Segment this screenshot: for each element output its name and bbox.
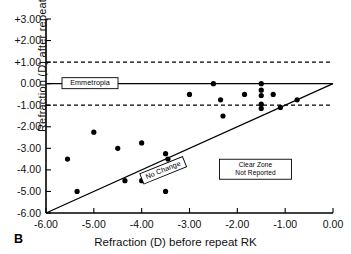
- svg-text:-6.00: -6.00: [17, 207, 41, 219]
- data-point: [271, 92, 276, 97]
- data-point: [295, 97, 300, 102]
- data-point: [91, 130, 96, 135]
- data-point: [165, 157, 170, 162]
- emmetropia-label: Emmetropia: [62, 78, 118, 89]
- data-point: [74, 189, 79, 194]
- svg-text:-3.00: -3.00: [178, 218, 202, 230]
- svg-text:Not Reported: Not Reported: [235, 169, 276, 177]
- data-point: [163, 151, 168, 156]
- y-axis-label: Refraction (D) after repeat RK: [36, 0, 48, 136]
- svg-text:-4.00: -4.00: [17, 163, 41, 175]
- scatter-plot: +3.00+2.00+1.000.00-1.00-2.00-3.00-4.00-…: [0, 0, 351, 254]
- svg-text:-3.00: -3.00: [17, 142, 41, 154]
- data-point: [211, 81, 216, 86]
- svg-text:-2.00: -2.00: [225, 218, 249, 230]
- x-axis-label: Refraction (D) before repeat RK: [0, 236, 351, 248]
- svg-text:-6.00: -6.00: [34, 218, 58, 230]
- data-point: [115, 146, 120, 151]
- data-point: [242, 92, 247, 97]
- data-point: [163, 189, 168, 194]
- data-point: [220, 113, 225, 118]
- figure-panel-b: +3.00+2.00+1.000.00-1.00-2.00-3.00-4.00-…: [0, 0, 351, 254]
- svg-text:-4.00: -4.00: [130, 218, 154, 230]
- data-point: [218, 97, 223, 102]
- data-point: [259, 93, 264, 98]
- data-point: [65, 157, 70, 162]
- svg-text:-1.00: -1.00: [273, 218, 297, 230]
- data-point: [187, 92, 192, 97]
- axis-lines: [46, 19, 333, 213]
- svg-text:-5.00: -5.00: [82, 218, 106, 230]
- data-point: [122, 178, 127, 183]
- svg-text:0.00: 0.00: [323, 218, 344, 230]
- data-point: [139, 140, 144, 145]
- svg-text:Emmetropia: Emmetropia: [70, 78, 110, 87]
- data-point: [259, 106, 264, 111]
- panel-letter: B: [14, 232, 23, 246]
- data-point: [259, 88, 264, 93]
- annotation-boxes: EmmetropiaNo ChangeClear ZoneNot Reporte…: [62, 78, 292, 184]
- data-point: [278, 105, 283, 110]
- clear-zone-not-reported-label: Clear ZoneNot Reported: [220, 159, 292, 179]
- x-axis-tick-labels: -6.00-5.00-4.00-3.00-2.00-1.000.00: [34, 208, 343, 230]
- data-point: [259, 81, 264, 86]
- svg-text:-5.00: -5.00: [17, 185, 41, 197]
- svg-text:Clear Zone: Clear Zone: [239, 161, 273, 168]
